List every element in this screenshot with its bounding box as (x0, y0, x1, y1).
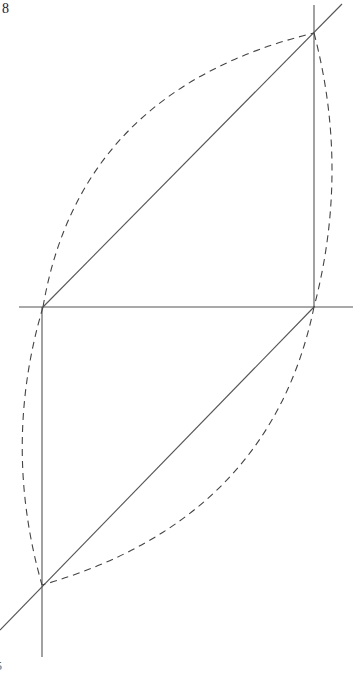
lower-left-arc-curve (22, 307, 43, 585)
figure-number: 8 (2, 2, 9, 16)
upper-diagonal-line (43, 4, 342, 307)
solid-lines (0, 4, 353, 657)
upper-right-arc-curve (314, 33, 332, 307)
corner-mark: 5 (0, 660, 2, 672)
dashed-curves (22, 33, 332, 585)
geometric-diagram (0, 0, 353, 674)
lower-diagonal-line (0, 307, 314, 630)
